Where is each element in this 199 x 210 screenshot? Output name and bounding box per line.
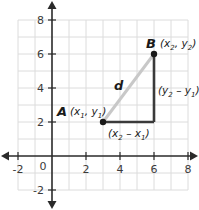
point-b-name: B: [146, 36, 156, 51]
x-tick-label: 6: [151, 163, 158, 176]
coordinate-plane-diagram: -2 2 4 6 8 8 6 4 2 -2 0 B (x2, y2) A (x1…: [0, 0, 199, 210]
y-tick-label: 6: [37, 48, 44, 61]
point-a-name: A: [56, 104, 67, 119]
y-tick-label: 2: [37, 116, 44, 129]
y-tick-label: 4: [37, 82, 44, 95]
horizontal-leg-label: (x2 – x1): [108, 127, 150, 142]
y-tick-label: -2: [33, 184, 44, 197]
x-tick-label: 8: [185, 163, 192, 176]
x-axis: [1, 152, 198, 161]
origin-label: 0: [40, 160, 47, 173]
y-tick-label: 8: [37, 14, 44, 27]
x-axis-left-arrow-icon: [1, 152, 9, 161]
point-a-coords: (x1, y1): [70, 105, 106, 120]
point-b-coords: (x2, y2): [160, 37, 196, 52]
vertical-leg-label: (y2 – y1): [158, 84, 199, 99]
x-tick-label: 2: [83, 163, 90, 176]
x-tick-label: 4: [117, 163, 124, 176]
distance-label: d: [114, 78, 124, 93]
point-b-dot: [151, 51, 157, 57]
x-tick-label: -2: [13, 163, 24, 176]
y-axis-up-arrow-icon: [48, 1, 57, 9]
x-axis-right-arrow-icon: [190, 152, 198, 161]
y-axis-down-arrow-icon: [48, 201, 57, 209]
